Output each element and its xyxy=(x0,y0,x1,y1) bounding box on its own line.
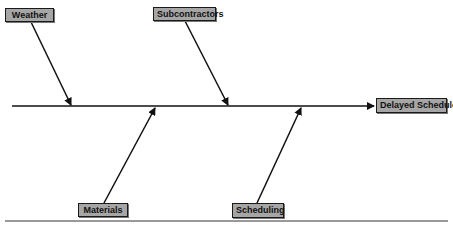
cause-box-scheduling: Scheduling xyxy=(232,203,284,218)
weather-bone-arrow xyxy=(31,22,71,105)
subcontractors-bone-arrow xyxy=(185,21,228,105)
effect-box-delayed-schedule: Delayed Schedule xyxy=(376,98,447,113)
cause-box-weather: Weather xyxy=(5,8,54,22)
materials-bone-arrow xyxy=(104,108,155,203)
cause-box-subcontractors: Subcontractors xyxy=(153,7,216,21)
scheduling-bone-arrow xyxy=(257,108,301,203)
cause-box-materials: Materials xyxy=(78,203,128,217)
fishbone-lines xyxy=(0,0,453,228)
